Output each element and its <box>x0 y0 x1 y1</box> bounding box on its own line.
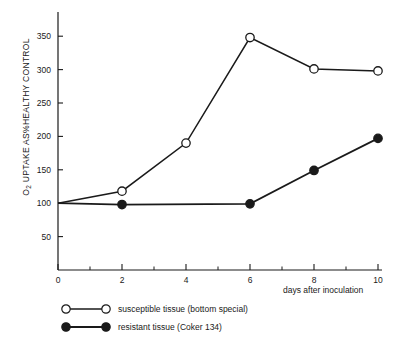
x-tick-label: 8 <box>312 275 317 285</box>
x-tick-label: 10 <box>373 275 383 285</box>
legend-marker-filled-circle <box>60 320 112 334</box>
data-series-layer <box>58 33 382 208</box>
x-axis-ticks: 0246810 <box>56 264 383 285</box>
legend-item-resistant: resistant tissue (Coker 134) <box>60 318 390 336</box>
legend-label-resistant: resistant tissue (Coker 134) <box>118 322 222 332</box>
data-point-marker <box>374 67 382 75</box>
data-point-marker <box>182 139 190 147</box>
legend-item-susceptible: susceptible tissue (bottom special) <box>60 300 390 318</box>
x-tick-label: 6 <box>248 275 253 285</box>
series-resistant <box>58 134 382 209</box>
x-axis-title: days after inoculation <box>283 285 363 295</box>
line-chart-plot: 50100150200250300350 0246810 <box>0 0 408 348</box>
data-point-marker <box>310 166 318 174</box>
chart-legend: susceptible tissue (bottom special) resi… <box>60 300 390 336</box>
x-tick-label: 0 <box>56 275 61 285</box>
data-point-marker <box>118 187 126 195</box>
y-tick-label: 100 <box>37 198 51 208</box>
legend-label-susceptible: susceptible tissue (bottom special) <box>118 304 248 314</box>
y-tick-label: 250 <box>37 98 51 108</box>
series-line <box>58 38 378 204</box>
y-tick-label: 350 <box>37 31 51 41</box>
data-point-marker <box>246 200 254 208</box>
y-axis-title-prefix: O <box>21 189 31 196</box>
data-point-marker <box>246 33 254 41</box>
y-tick-label: 150 <box>37 165 51 175</box>
legend-marker-open-circle <box>60 302 112 316</box>
x-tick-label: 2 <box>120 275 125 285</box>
y-axis-title-subscript: 2 <box>25 185 32 189</box>
data-point-marker <box>118 200 126 208</box>
y-tick-label: 50 <box>42 232 52 242</box>
y-tick-label: 200 <box>37 131 51 141</box>
data-point-marker <box>310 65 318 73</box>
y-axis-title-rest: UPTAKE AS%HEALTHY CONTROL <box>21 38 31 185</box>
y-tick-label: 300 <box>37 65 51 75</box>
y-axis-ticks: 50100150200250300350 <box>37 31 63 241</box>
series-susceptible <box>58 33 382 203</box>
chart-figure: 50100150200250300350 0246810 O2 UPTAKE A… <box>0 0 408 348</box>
x-tick-label: 4 <box>184 275 189 285</box>
y-axis-title: O2 UPTAKE AS%HEALTHY CONTROL <box>21 17 31 217</box>
axis-group <box>58 12 382 270</box>
data-point-marker <box>374 134 382 142</box>
